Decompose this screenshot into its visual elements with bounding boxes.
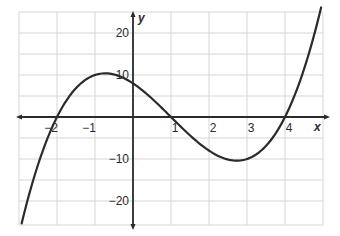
x-tick-label: −2 [44,121,58,135]
x-tick-label: −1 [82,121,96,135]
function-graph: −2−11234 2010−10−20 x y [0,0,340,236]
y-tick-label: 10 [116,68,130,82]
y-tick-label: −20 [109,194,130,208]
y-tick-label: −10 [109,152,130,166]
x-axis-label: x [313,120,322,134]
y-tick-label: 20 [116,26,130,40]
x-tick-label: 4 [286,121,293,135]
x-tick-label: 1 [172,121,179,135]
x-axis-arrow-right-icon [324,115,330,120]
y-axis-label: y [137,11,146,25]
y-axis-arrow-down-icon [131,224,136,230]
x-tick-labels: −2−11234 [44,121,293,135]
x-tick-label: 3 [248,121,255,135]
x-tick-label: 2 [210,121,217,135]
